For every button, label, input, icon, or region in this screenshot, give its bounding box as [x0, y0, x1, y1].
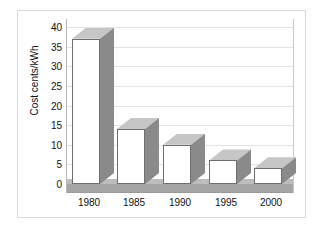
- y-tick-label: 0: [36, 179, 62, 190]
- y-tick-label: 20: [36, 100, 62, 111]
- bar-1980[interactable]: [72, 28, 100, 184]
- bar-front-face: [209, 160, 237, 184]
- bar-front-face: [117, 129, 145, 184]
- bar-front-face: [163, 145, 191, 184]
- y-tick-label: 35: [36, 41, 62, 52]
- y-tick-label: 25: [36, 80, 62, 91]
- y-tick-label: 40: [36, 22, 62, 33]
- bar-front-face: [254, 168, 282, 184]
- x-axis-line: [67, 192, 293, 193]
- x-tick-label: 1990: [169, 197, 191, 208]
- bar-1985[interactable]: [117, 118, 145, 184]
- bars: [67, 19, 293, 193]
- x-tick-label: 2000: [260, 197, 282, 208]
- y-tick-label: 10: [36, 139, 62, 150]
- chart-figure: Cost cents/kWh 0510152025303540 19801985…: [17, 10, 306, 218]
- bar-side-face: [100, 28, 114, 184]
- plot-area: [66, 19, 294, 193]
- y-axis-tick-labels: 0510152025303540: [36, 19, 62, 193]
- bar-front-face: [72, 39, 100, 184]
- x-tick-label: 1985: [123, 197, 145, 208]
- x-tick-label: 1980: [78, 197, 100, 208]
- y-tick-label: 15: [36, 120, 62, 131]
- y-tick-label: 5: [36, 159, 62, 170]
- x-axis-tick-labels: 19801985199019952000: [66, 197, 294, 213]
- x-tick-label: 1995: [215, 197, 237, 208]
- bar-2000[interactable]: [254, 157, 282, 184]
- bar-1990[interactable]: [163, 134, 191, 184]
- y-tick-label: 30: [36, 61, 62, 72]
- bar-1995[interactable]: [209, 149, 237, 184]
- bar-side-face: [145, 118, 159, 184]
